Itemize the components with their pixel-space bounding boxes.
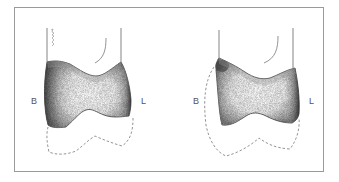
- left-buccal-label: B: [31, 96, 37, 106]
- left-tooth: [44, 28, 133, 154]
- right-tooth: [205, 28, 300, 156]
- right-lingual-label: L: [309, 96, 314, 106]
- tooth-diagram: [0, 0, 339, 182]
- right-buccal-label: B: [193, 96, 199, 106]
- left-lingual-label: L: [141, 96, 146, 106]
